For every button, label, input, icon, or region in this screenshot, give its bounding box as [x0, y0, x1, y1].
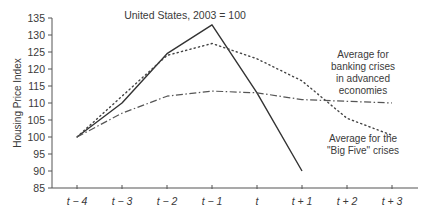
- annotation-line: Average for: [337, 49, 389, 60]
- housing-price-chart: 859095100105110115120125130135t − 4t − 3…: [0, 0, 426, 217]
- y-tick-label: 90: [33, 165, 45, 177]
- x-tick-label: t − 4: [67, 195, 88, 207]
- x-tick-label: t + 2: [337, 195, 358, 207]
- x-tick-label: t − 3: [112, 195, 133, 207]
- y-tick-label: 95: [33, 148, 45, 160]
- series-line-solid: [77, 25, 302, 171]
- x-tick-label: t + 1: [292, 195, 313, 207]
- advanced-economies-annotation: Average for banking crises in advanced e…: [331, 49, 395, 96]
- annotation-line: "Big Five" crises: [327, 145, 399, 156]
- us-annotation: United States, 2003 = 100: [124, 9, 246, 21]
- x-tick-label: t + 3: [382, 195, 403, 207]
- y-tick-label: 110: [28, 97, 45, 109]
- y-tick-label: 125: [27, 46, 45, 58]
- annotation-line: Average for the: [329, 133, 398, 144]
- y-tick-label: 120: [27, 63, 45, 75]
- y-tick-label: 85: [33, 182, 45, 194]
- x-tick-label: t: [256, 195, 260, 207]
- y-tick-label: 115: [28, 80, 45, 92]
- annotation-line: banking crises: [331, 61, 395, 72]
- annotation-line: in advanced: [336, 73, 390, 84]
- annotation-line: economies: [339, 85, 387, 96]
- y-tick-label: 100: [27, 131, 45, 143]
- y-tick-label: 135: [27, 12, 45, 24]
- y-axis-label: Housing Price Index: [12, 58, 23, 148]
- x-tick-label: t − 2: [157, 195, 178, 207]
- x-tick-label: t − 1: [202, 195, 223, 207]
- y-tick-label: 105: [27, 114, 45, 126]
- big-five-annotation: Average for the "Big Five" crises: [327, 133, 399, 156]
- y-tick-label: 130: [27, 29, 45, 41]
- series-line-dash-dot: [77, 91, 392, 137]
